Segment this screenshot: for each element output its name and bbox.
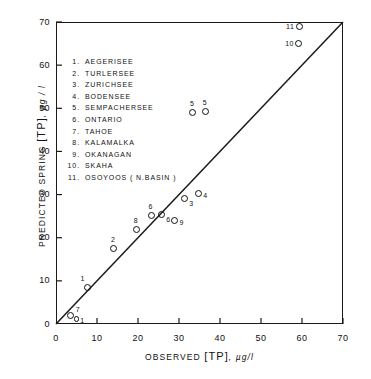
data-point-label: 8 [134,217,138,224]
y-axis-title-bracket: [TP] [35,117,47,142]
legend-entry-number: 7. [66,126,80,138]
y-tick-label: 0 [24,319,50,329]
legend-entry-label: ZURICHSEE [80,81,134,88]
legend-entry-label: TAHOE [80,128,113,135]
legend-entry-label: OSOYOOS ( N.BASIN ) [80,174,176,181]
data-point-label: 5 [203,99,207,106]
x-tick-label: 20 [125,333,151,343]
legend-entry: 8.KALAMALKA [66,137,176,149]
legend-entry-number: 10. [66,160,80,172]
data-point-label: 9 [179,219,183,226]
legend-entry: 1.AEGERISEE [66,56,176,68]
data-point-marker [67,312,74,319]
legend-entry: 2.TURLERSEE [66,68,176,80]
x-tick-label: 70 [330,333,356,343]
data-point-label: 1 [80,275,84,282]
x-tick-label: 50 [248,333,274,343]
legend-entry: 7.TAHOE [66,126,176,138]
scatter-chart-figure: 010203040506070 010203040506070 OBSERVED… [0,0,371,379]
chart-vector-layer [0,0,371,379]
data-point-marker [296,23,303,30]
data-point-label: 10 [285,40,294,47]
x-tick-label: 0 [43,333,69,343]
data-point-label: 6 [149,203,153,210]
data-point-label: 3 [189,200,193,207]
data-point-marker [110,245,117,252]
data-point-label: 1 [80,317,84,324]
x-tick-label: 40 [207,333,233,343]
data-point-marker [148,212,155,219]
legend-entry: 4.BODENSEE [66,91,176,103]
legend-entry: 9.OKANAGAN [66,149,176,161]
legend-entry-label: TURLERSEE [80,70,135,77]
legend-entry-number: 9. [66,149,80,161]
legend-entry: 6.ONTARIO [66,114,176,126]
data-point-label: 11 [286,23,294,30]
legend-entry-number: 4. [66,91,80,103]
y-tick-label: 70 [24,17,50,27]
legend-entry-number: 8. [66,137,80,149]
legend-entry: 10.SKAHA [66,160,176,172]
legend-entry: 5.SEMPACHERSEE [66,102,176,114]
x-tick-label: 30 [166,333,192,343]
legend-entry-number: 6. [66,114,80,126]
data-point-marker [74,316,79,321]
legend-entry-label: ONTARIO [80,116,123,123]
legend-entry-number: 3. [66,79,80,91]
y-axis-title-main: PREDICTED SPRING [37,145,47,247]
y-axis-title: PREDICTED SPRING [TP], µg / l [35,41,47,291]
x-axis-title-main: OBSERVED [145,352,201,362]
data-point-label: 7 [76,306,80,313]
legend-entry-label: KALAMALKA [80,139,135,146]
legend-entry: 11.OSOYOOS ( N.BASIN ) [66,172,176,184]
legend-entry-number: 5. [66,102,80,114]
x-tick-label: 10 [84,333,110,343]
legend-entry: 3.ZURICHSEE [66,79,176,91]
legend-entry-label: OKANAGAN [80,151,132,158]
legend-entry-label: SKAHA [80,162,113,169]
data-point-label: 6 [166,216,170,223]
x-axis-title-bracket: [TP] [204,350,229,362]
legend-entry-label: BODENSEE [80,93,131,100]
chart-legend: 1.AEGERISEE2.TURLERSEE3.ZURICHSEE4.BODEN… [66,56,176,184]
data-point-label: 2 [111,236,115,243]
x-axis-title: OBSERVED [TP], µg/l [56,350,343,362]
x-axis-title-units: , µg/l [229,352,254,362]
y-axis-title-units: , µg / l [37,85,47,117]
legend-entry-label: AEGERISEE [80,58,134,65]
legend-entry-number: 2. [66,68,80,80]
data-point-label: 5 [190,100,194,107]
legend-entry-number: 1. [66,56,80,68]
legend-entry-number: 11. [66,172,80,184]
x-tick-label: 60 [289,333,315,343]
data-point-label: 4 [203,192,207,199]
data-point-marker [202,108,209,115]
data-point-marker [133,226,140,233]
legend-entry-label: SEMPACHERSEE [80,104,154,111]
